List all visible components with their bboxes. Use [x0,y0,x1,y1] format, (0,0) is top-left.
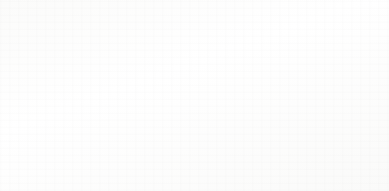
x-axis-tick-label: 2011 [84,165,100,174]
y-axis-tick-label: 0% [42,155,53,164]
series-line-benefits [69,139,255,149]
series-line-other [69,156,255,159]
y-axis-tick-label: 2% [42,126,53,135]
x-axis-tick-label: 2010 [61,165,78,174]
legend-label-other: Other [297,110,317,119]
y-axis-tick-label: 9% [42,23,53,32]
x-axis-tick-labels: 201020112012201320142015201620172018 [61,165,264,174]
y-axis-tick-label: 10% [38,8,53,17]
x-axis-tick-label: 2012 [107,165,124,174]
x-axis-tick-label: 2016 [200,165,217,174]
y-axis-tick-label: 1% [42,140,53,149]
x-axis-tick-label: 2015 [177,165,194,174]
chart-legend: CompensationBenefitsOther [278,69,347,119]
x-axis-tick-label: 2018 [247,165,264,174]
x-axis-tick-label: 2017 [224,165,241,174]
data-series [69,26,255,159]
x-axis-tick-label: 2014 [154,165,171,174]
legend-label-compensation: Compensation [297,69,347,78]
y-axis-tick-label: 6% [42,67,53,76]
y-axis-tick-labels: 0%1%2%3%4%5%6%7%8%9%10% [38,8,53,164]
gridlines [58,13,268,160]
legend-label-benefits: Benefits [297,90,325,99]
series-line-compensation [69,26,255,67]
y-axis-tick-label: 7% [42,52,53,61]
chart-container: 0%1%2%3%4%5%6%7%8%9%10% 2010201120122013… [0,0,389,191]
y-axis-tick-label: 3% [42,111,53,120]
x-axis-tick-label: 2013 [131,165,148,174]
line-chart-plot: 0%1%2%3%4%5%6%7%8%9%10% 2010201120122013… [0,0,389,191]
y-axis-tick-label: 8% [42,37,53,46]
y-axis-tick-label: 4% [42,96,53,105]
y-axis-title: Percent of All Reasons [15,49,24,124]
y-axis-tick-label: 5% [42,81,53,90]
